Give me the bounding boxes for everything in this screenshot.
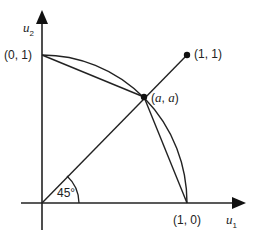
diagonal-line <box>42 55 187 203</box>
chord-right <box>144 97 187 203</box>
point-11-dot <box>184 52 190 58</box>
y-axis-arrow-icon <box>36 10 48 24</box>
y-axis-label: u2 <box>23 20 35 38</box>
label-1-1: (1, 1) <box>194 47 222 61</box>
label-0-1: (0, 1) <box>4 48 32 62</box>
point-aa-dot <box>141 94 147 100</box>
chord-left <box>42 55 144 97</box>
x-axis-arrow-icon <box>232 197 246 209</box>
label-a-a: (a, a) <box>151 90 179 105</box>
diagram-canvas: (0, 1) (1, 0) (1, 1) (a, a) 45° u2 u1 <box>0 0 254 238</box>
label-1-0: (1, 0) <box>173 213 201 227</box>
angle-label: 45° <box>57 186 75 200</box>
x-axis-label: u1 <box>226 212 238 230</box>
diagram-svg: (0, 1) (1, 0) (1, 1) (a, a) 45° u2 u1 <box>0 0 254 238</box>
